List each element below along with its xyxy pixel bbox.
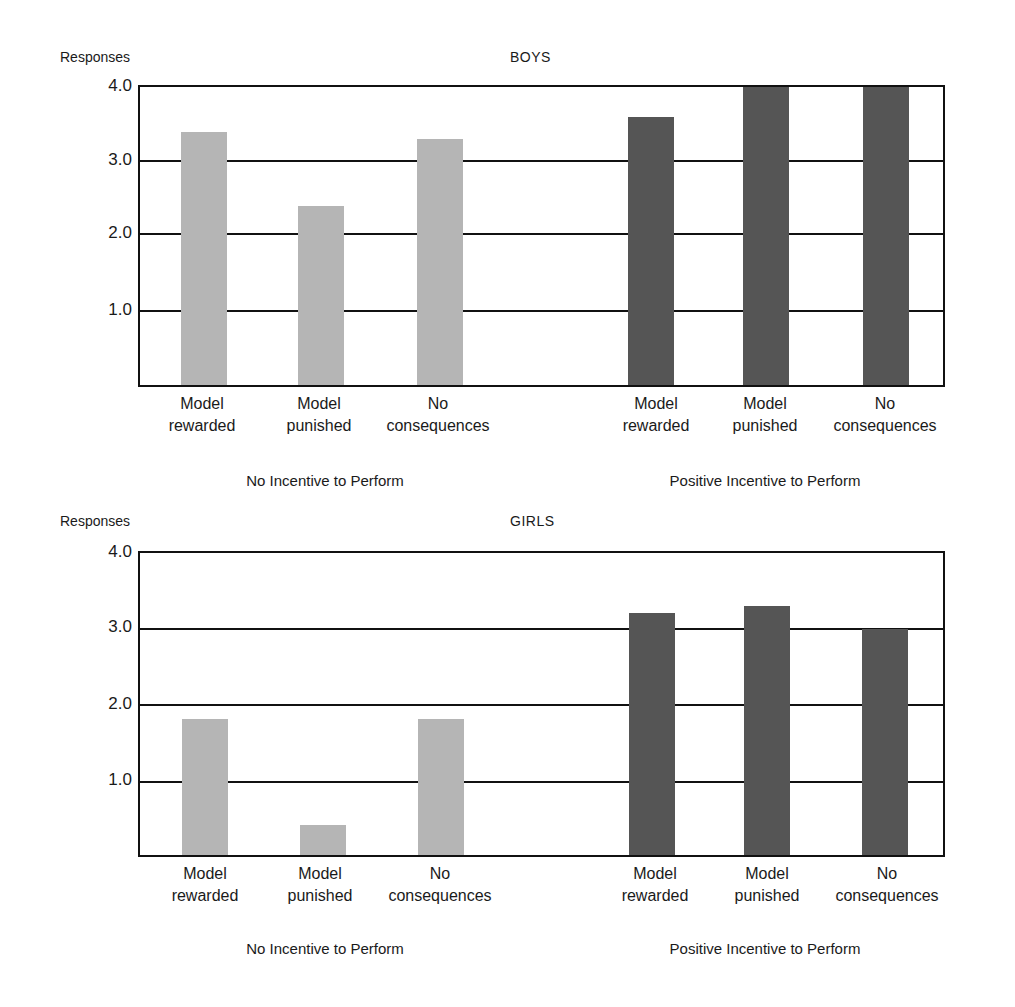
y-axis-title: Responses bbox=[60, 513, 130, 529]
gridline bbox=[140, 628, 943, 630]
y-tick: 1.0 bbox=[82, 770, 132, 790]
bar bbox=[629, 613, 675, 855]
bar bbox=[744, 606, 790, 855]
plot-area bbox=[138, 551, 945, 857]
chart-title: GIRLS bbox=[510, 513, 555, 529]
gridline bbox=[140, 781, 943, 783]
bar bbox=[862, 629, 908, 856]
x-tick-label: Noconsequences bbox=[822, 863, 952, 907]
bar bbox=[182, 719, 228, 855]
group-label: No Incentive to Perform bbox=[165, 940, 485, 957]
x-tick-label: Modelpunished bbox=[255, 863, 385, 907]
gridline bbox=[140, 704, 943, 706]
x-tick-label: Modelpunished bbox=[702, 863, 832, 907]
girls-panel: Responses GIRLS 4.0 3.0 2.0 1.0 Modelrew… bbox=[0, 0, 1015, 1007]
y-tick: 3.0 bbox=[82, 617, 132, 637]
x-tick-label: Modelrewarded bbox=[590, 863, 720, 907]
x-tick-label: Modelrewarded bbox=[140, 863, 270, 907]
bar bbox=[418, 719, 464, 855]
y-tick: 4.0 bbox=[82, 542, 132, 562]
y-tick: 2.0 bbox=[82, 694, 132, 714]
group-label: Positive Incentive to Perform bbox=[605, 940, 925, 957]
x-tick-label: Noconsequences bbox=[375, 863, 505, 907]
bar bbox=[300, 825, 346, 855]
